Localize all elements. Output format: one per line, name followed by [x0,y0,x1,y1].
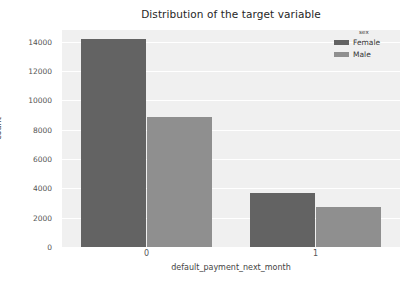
legend-swatch-icon [334,40,349,45]
chart-figure: Distribution of the target variable 0200… [0,0,411,293]
y-tick-label: 14000 [28,37,52,46]
legend-item-label: Female [353,38,380,47]
bar [147,117,213,247]
y-tick-label: 4000 [33,184,52,193]
legend-item-label: Male [353,50,371,59]
y-tick-label: 10000 [28,96,52,105]
y-tick-label: 0 [47,243,52,252]
bar [250,193,316,247]
y-tick-label: 6000 [33,155,52,164]
legend-swatch-icon [334,52,349,57]
y-tick-label: 8000 [33,125,52,134]
legend-item[interactable]: Female [334,38,408,47]
y-tick-label: 12000 [28,67,52,76]
x-axis-tick-labels: 01 [62,249,400,263]
chart-title: Distribution of the target variable [62,8,400,20]
bar [316,207,382,247]
plot-area [62,30,400,247]
bar [81,39,147,247]
y-tick-label: 2000 [33,213,52,222]
legend: sex FemaleMale [334,29,408,59]
legend-entries: FemaleMale [334,38,408,59]
legend-item[interactable]: Male [334,50,408,59]
x-tick-label: 0 [144,249,149,258]
x-axis-label: default_payment_next_month [62,263,400,272]
y-axis-label: count [0,117,3,140]
y-axis-tick-labels: 02000400060008000100001200014000 [0,30,58,247]
legend-title: sex [338,29,390,35]
x-tick-label: 1 [313,249,318,258]
